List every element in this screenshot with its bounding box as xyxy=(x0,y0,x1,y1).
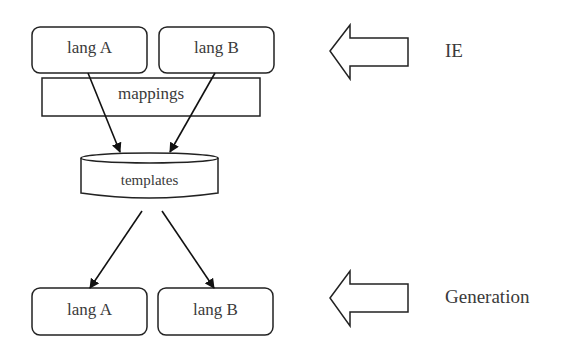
top-lang-b-label: lang B xyxy=(159,38,274,58)
templates-label: templates xyxy=(81,172,218,189)
arrow-templates-to-lang-b xyxy=(162,211,214,288)
arrow-templates-to-lang-a xyxy=(90,211,142,288)
bottom-lang-b-label: lang B xyxy=(158,300,273,320)
generation-label: Generation xyxy=(445,286,529,308)
generation-block-arrow-icon xyxy=(330,271,408,326)
ie-label: IE xyxy=(445,40,463,62)
mappings-label: mappings xyxy=(42,84,260,104)
bottom-lang-a-label: lang A xyxy=(32,300,147,320)
ie-block-arrow-icon xyxy=(330,25,408,79)
top-lang-a-label: lang A xyxy=(32,38,147,58)
